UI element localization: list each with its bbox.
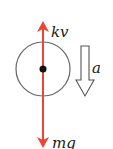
free-body-diagram: kv a mg: [0, 0, 113, 149]
center-of-mass-dot: [40, 66, 47, 73]
acceleration-label: a: [92, 59, 101, 77]
force-kv-label: kv: [51, 23, 69, 41]
force-mg-label: mg: [52, 134, 76, 149]
